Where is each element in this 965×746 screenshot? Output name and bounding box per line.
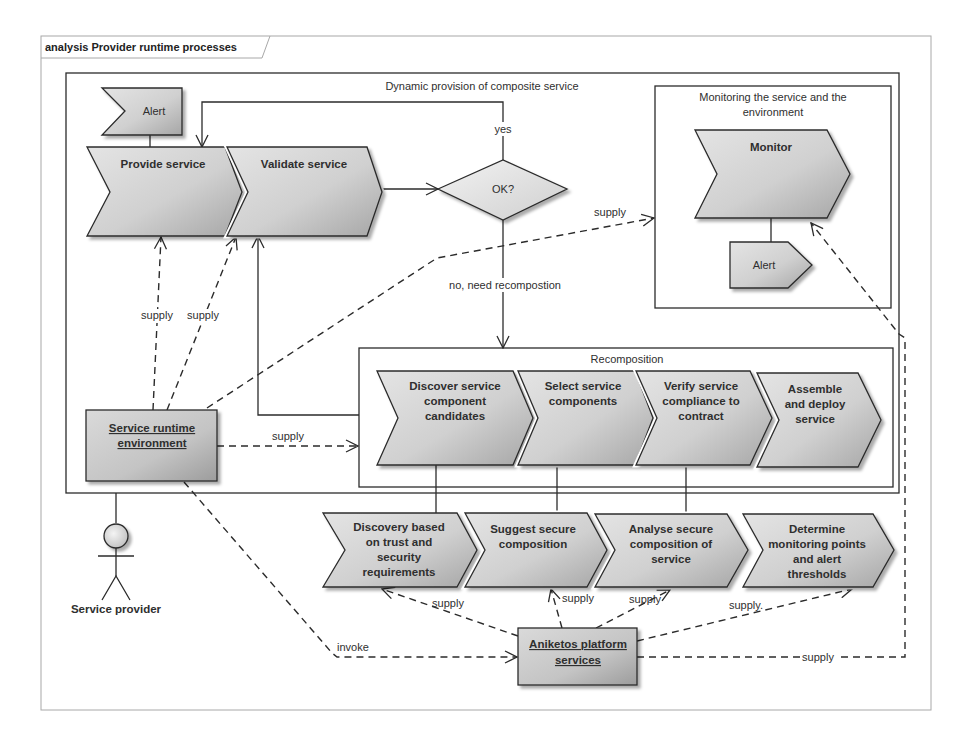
verify-label-line-3: contract — [678, 410, 724, 422]
supply-discovery-label: supply — [432, 597, 464, 609]
service-runtime-environment-line-1: Service runtime — [109, 422, 195, 434]
analysis-frame-title: analysis Provider runtime processes — [45, 41, 237, 53]
supply-monitor-top-label: supply — [594, 206, 626, 218]
supply-recomposition-label: supply — [272, 430, 304, 442]
supply-analyse-label: supply — [629, 593, 661, 605]
actor-legs-icon — [102, 576, 130, 600]
recomposition-step-verify: Verify service compliance to contract — [636, 371, 772, 465]
monitor-label: Monitor — [750, 141, 793, 153]
decision-label: OK? — [492, 183, 514, 195]
determine-label-line-3: and alert — [793, 553, 841, 565]
supply-suggest-label: supply — [562, 592, 594, 604]
supply-suggest-arrow — [551, 589, 562, 628]
yes-label: yes — [494, 123, 512, 135]
recomposition-step-discover: Discover service component candidates — [377, 371, 533, 465]
validate-service-label: Validate service — [261, 158, 347, 170]
alert-top-label: Alert — [143, 105, 166, 117]
recomposition-group-title: Recomposition — [591, 353, 664, 365]
assemble-label-line-3: service — [795, 413, 835, 425]
platform-step-analyse: Analyse secure composition of service — [595, 514, 748, 587]
analyse-label-line-1: Analyse secure — [629, 523, 713, 535]
analyse-label-line-2: composition of — [630, 538, 713, 550]
verify-label-line-2: compliance to — [662, 395, 739, 407]
monitor-process: Monitor — [695, 130, 850, 218]
provide-service-process: Provide service — [87, 147, 242, 236]
determine-label-line-2: monitoring points — [768, 538, 866, 550]
select-label-line-1: Select service — [545, 380, 622, 392]
assemble-label-line-2: and deploy — [785, 398, 846, 410]
provide-service-label: Provide service — [120, 158, 205, 170]
alert-monitor-label: Alert — [753, 259, 776, 271]
supply-validate-label: supply — [187, 309, 219, 321]
select-label-line-2: components — [549, 395, 617, 407]
platform-step-suggest: Suggest secure composition — [465, 513, 607, 587]
discovery-label-line-3: security — [377, 551, 422, 563]
aniketos-platform-line-2: services — [555, 654, 601, 666]
service-runtime-environment: Service runtime environment — [86, 410, 217, 481]
monitoring-group-title-line-1: Monitoring the service and the — [699, 91, 846, 103]
discovery-label-line-4: requirements — [363, 566, 436, 578]
discover-label-line-3: candidates — [425, 410, 485, 422]
supply-monitor-bottom-label: supply — [802, 651, 834, 663]
service-runtime-environment-line-2: environment — [117, 437, 186, 449]
analyse-label-line-3: service — [651, 553, 691, 565]
actor-label: Service provider — [71, 603, 162, 615]
monitoring-group-title-line-2: environment — [743, 106, 804, 118]
suggest-label-line-1: Suggest secure — [490, 523, 576, 535]
aniketos-platform-services: Aniketos platform services — [518, 628, 637, 685]
discovery-label-line-2: on trust and — [366, 536, 432, 548]
validate-service-process: Validate service — [227, 147, 382, 236]
assemble-label-line-1: Assemble — [788, 383, 842, 395]
service-provider-actor: Service provider — [71, 524, 162, 615]
no-label: no, need recompostion — [449, 279, 561, 291]
dynamic-provision-title: Dynamic provision of composite service — [385, 80, 578, 92]
suggest-label-line-2: composition — [499, 538, 567, 550]
determine-label-line-1: Determine — [789, 523, 845, 535]
platform-step-determine: Determine monitoring points and alert th… — [743, 514, 894, 587]
supply-provide-label: supply — [141, 309, 173, 321]
verify-label-line-1: Verify service — [664, 380, 738, 392]
determine-label-line-4: thresholds — [788, 568, 847, 580]
aniketos-platform-line-1: Aniketos platform — [529, 638, 627, 650]
supply-determine-arrow — [637, 589, 852, 641]
diagram-canvas: analysis Provider runtime processes Dyna… — [0, 0, 965, 746]
discover-label-line-1: Discover service — [409, 380, 500, 392]
actor-head-icon — [104, 524, 128, 548]
discovery-label-line-1: Discovery based — [353, 521, 444, 533]
recomposition-step-select: Select service components — [518, 371, 653, 465]
invoke-label: invoke — [337, 641, 369, 653]
supply-determine-label: supply. — [729, 599, 763, 611]
platform-step-discovery: Discovery based on trust and security re… — [323, 513, 477, 587]
discover-label-line-2: component — [424, 395, 486, 407]
